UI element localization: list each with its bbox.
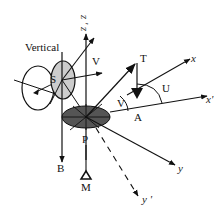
label-u: U xyxy=(162,82,170,94)
y-prime-axis xyxy=(96,128,138,196)
y-axis xyxy=(86,117,175,165)
small-arrowhead-icon xyxy=(33,89,39,95)
label-t: T xyxy=(140,52,147,64)
label-y: y xyxy=(177,162,183,174)
label-b: B xyxy=(57,162,64,174)
label-y-prime: y ' xyxy=(141,193,153,205)
label-p: P xyxy=(82,133,88,145)
label-m: M xyxy=(81,181,91,193)
label-x: x xyxy=(190,52,196,64)
label-a: A xyxy=(134,111,142,123)
label-x-prime: x' xyxy=(205,93,214,105)
label-vertical: Vertical xyxy=(25,41,59,53)
s-to-zprime-line xyxy=(62,38,94,80)
label-z-prime: z ' xyxy=(79,14,91,25)
label-z: z xyxy=(79,26,91,32)
diagram-canvas: Vertical z ' z S V T x U V x' A P B M y … xyxy=(0,0,221,212)
label-v-upper: V xyxy=(92,55,100,67)
label-v-angle: V xyxy=(117,97,125,109)
m-triangle-icon xyxy=(81,171,91,179)
coordinate-diagram: Vertical z ' z S V T x U V x' A P B M y … xyxy=(0,0,221,212)
label-s: S xyxy=(50,73,56,85)
